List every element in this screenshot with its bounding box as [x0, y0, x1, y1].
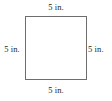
dimension-label-bottom: 5 in.: [25, 85, 87, 95]
square-shape: [25, 16, 87, 80]
dimension-label-left: 5 in.: [0, 44, 24, 54]
dimension-label-right: 5 in.: [88, 44, 112, 54]
square-figure: 5 in. 5 in. 5 in. 5 in.: [0, 0, 112, 101]
dimension-label-top: 5 in.: [25, 2, 87, 12]
